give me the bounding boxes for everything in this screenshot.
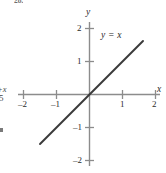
x-tick-label--2: –2 <box>18 100 27 109</box>
coordinate-plane <box>0 0 166 173</box>
x-tick-label-1: 1 <box>120 100 125 109</box>
x-tick-label--1: –1 <box>51 100 60 109</box>
line-y-equals-x <box>40 41 143 144</box>
y-tick-label--1: –1 <box>73 123 82 132</box>
y-axis-label: y <box>86 8 90 18</box>
y-tick-label-2: 2 <box>77 24 82 33</box>
graph-figure: 28. +x 5 y x y = x –2 –1 1 2 <box>0 0 166 173</box>
x-axis-label: x <box>157 85 161 95</box>
y-tick-label--2: –2 <box>73 156 82 165</box>
x-tick-label-2: 2 <box>152 100 157 109</box>
equation-label: y = x <box>101 31 122 41</box>
y-tick-label-1: 1 <box>77 57 82 66</box>
